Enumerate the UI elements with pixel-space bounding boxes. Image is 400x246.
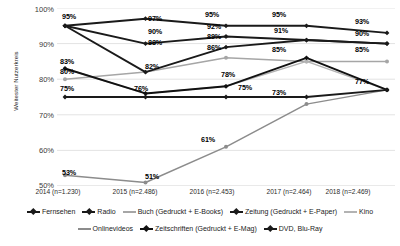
data-point [385,59,389,63]
legend-item-onlinevideos[interactable]: Onlinevideos [78,225,133,232]
legend-row-secondary: OnlinevideosZeitschriften (Gedruckt + E-… [0,220,400,237]
legend-item-kino[interactable]: Kino [344,208,373,215]
data-label: 53% [62,168,76,177]
data-label: 51% [145,172,159,181]
data-label: 61% [201,135,215,144]
data-point [224,45,229,50]
series-3 [63,23,390,74]
data-label: 95% [62,12,76,21]
legend-marker-icon [230,208,243,215]
data-point [304,38,309,43]
series-5 [63,88,389,185]
data-label: 90% [355,29,369,38]
legend-marker-icon [140,225,153,232]
plot-svg [57,8,395,186]
data-label: 95% [272,10,286,19]
data-label: 85% [272,45,286,54]
legend-marker-icon [82,208,95,215]
legend-label: Kino [359,208,373,215]
legend-marker-icon [27,208,40,215]
legend-item-fernsehen[interactable]: Fernsehen [27,208,75,215]
legend-marker-icon [264,225,277,232]
legend-item-zeitschriften-gedruckt-e-mag[interactable]: Zeitschriften (Gedruckt + E-Mag) [140,225,257,232]
data-point [144,180,148,184]
legend-label: Onlinevideos [93,225,133,232]
data-label: 97% [148,14,162,23]
x-tick-label-2018: 2018 (n=2.469) [300,188,396,195]
y-tick-label-90: 90% [18,40,54,49]
data-label: 86% [207,43,221,52]
data-point [224,56,228,60]
data-point [224,23,229,28]
data-label: 82% [145,62,159,71]
data-label: 93% [355,17,369,26]
data-point [304,95,309,100]
legend-item-radio[interactable]: Radio [82,208,115,215]
data-point [224,145,228,149]
legend-label: Zeitung (Gedruckt + E-Paper) [245,208,337,215]
series-line [65,90,387,183]
plot-area [57,8,395,186]
y-tick-label-100: 100% [18,5,54,14]
chart-container: Weitester Nutzerkreis 100% 90% 80% 70% 6… [0,0,400,246]
chart-legend: FernsehenRadioBuch (Gedruckt + E-Books)Z… [0,203,400,237]
data-label: 89% [207,32,221,41]
data-point [224,34,229,39]
y-tick-label-60: 60% [18,146,54,155]
data-point [63,95,68,100]
data-point [143,95,148,100]
legend-item-buch-gedruckt-e-books[interactable]: Buch (Gedruckt + E-Books) [123,208,223,215]
data-point [63,77,67,81]
data-point [385,31,390,36]
legend-marker-icon [344,208,357,215]
data-label: 78% [221,70,235,79]
legend-row-primary: FernsehenRadioBuch (Gedruckt + E-Books)Z… [0,203,400,220]
data-label: 77% [355,77,369,86]
legend-marker-icon [123,208,136,215]
data-label: 88% [148,38,162,47]
data-point [385,41,390,46]
legend-label: Fernsehen [42,208,75,215]
data-label: 75% [238,83,252,92]
data-label: 75% [60,84,74,93]
legend-marker-icon [78,225,91,232]
legend-label: DVD, Blu-Ray [279,225,323,232]
data-label: 76% [134,84,148,93]
legend-item-zeitung-gedruckt-e-paper[interactable]: Zeitung (Gedruckt + E-Paper) [230,208,337,215]
data-label: 73% [272,88,286,97]
data-label: 95% [205,10,219,19]
data-label: 83% [60,57,74,66]
data-label: 90% [148,27,162,36]
y-tick-label-80: 80% [18,75,54,84]
series-0 [63,16,390,35]
data-point [304,23,309,28]
legend-label: Radio [97,208,115,215]
data-label: 85% [355,45,369,54]
legend-label: Zeitschriften (Gedruckt + E-Mag) [155,225,257,232]
legend-label: Buch (Gedruckt + E-Books) [138,208,223,215]
legend-item-dvd-blu-ray[interactable]: DVD, Blu-Ray [264,225,323,232]
data-point [305,102,309,106]
data-point [224,95,229,100]
data-point [224,84,229,89]
data-label: 80% [60,67,74,76]
y-tick-label-70: 70% [18,111,54,120]
data-label: 91% [274,26,288,35]
data-label: 92% [207,22,221,31]
